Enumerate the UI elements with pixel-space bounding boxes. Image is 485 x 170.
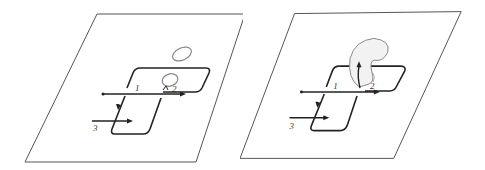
left-plane-diagram: 1 2 3 — [0, 0, 243, 170]
plane-parallelogram — [240, 12, 461, 159]
label-1: 1 — [135, 83, 140, 93]
label-3: 3 — [289, 121, 295, 131]
lower-ellipse — [160, 72, 179, 89]
label-1: 1 — [333, 81, 337, 91]
bubble-surface — [349, 38, 388, 87]
line-start-dot — [102, 93, 105, 96]
upper-ellipse — [170, 44, 193, 63]
label-2: 2 — [370, 81, 375, 91]
arrowhead-3 — [127, 119, 133, 124]
loop-lower — [311, 94, 357, 131]
loop-lower — [111, 96, 161, 134]
label-2: 2 — [172, 84, 177, 94]
arrowhead-3 — [323, 115, 329, 120]
label-3: 3 — [92, 123, 98, 133]
right-panel: 1 2 3 — [240, 0, 483, 170]
plane-parallelogram — [25, 14, 243, 162]
line-start-dot — [300, 90, 303, 93]
right-plane-diagram: 1 2 3 — [240, 0, 483, 170]
left-panel: 1 2 3 — [0, 0, 243, 170]
